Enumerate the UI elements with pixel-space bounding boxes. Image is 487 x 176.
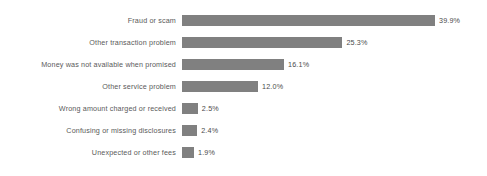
bar-track bbox=[182, 98, 435, 120]
category-label: Money was not available when promised bbox=[0, 54, 176, 76]
bar-value-label: 1.9% bbox=[198, 142, 215, 164]
bar-row: Unexpected or other fees1.9% bbox=[0, 142, 487, 164]
plot-area: Fraud or scam39.9%Other transaction prob… bbox=[0, 0, 487, 176]
bar-track bbox=[182, 120, 435, 142]
category-label: Other transaction problem bbox=[0, 32, 176, 54]
bar-row: Money was not available when promised16.… bbox=[0, 54, 487, 76]
bar-track bbox=[182, 10, 435, 32]
bar[interactable] bbox=[182, 125, 197, 136]
bar-row: Fraud or scam39.9% bbox=[0, 10, 487, 32]
bar-row: Confusing or missing disclosures2.4% bbox=[0, 120, 487, 142]
bar-track bbox=[182, 32, 435, 54]
bar-row: Wrong amount charged or received2.5% bbox=[0, 98, 487, 120]
bar-value-label: 16.1% bbox=[288, 54, 309, 76]
category-label: Other service problem bbox=[0, 76, 176, 98]
bar-chart: Fraud or scam39.9%Other transaction prob… bbox=[0, 0, 487, 176]
bar-row: Other transaction problem25.3% bbox=[0, 32, 487, 54]
bar-value-label: 2.4% bbox=[201, 120, 218, 142]
bar-track bbox=[182, 76, 435, 98]
bar[interactable] bbox=[182, 59, 284, 70]
category-label: Confusing or missing disclosures bbox=[0, 120, 176, 142]
bar[interactable] bbox=[182, 15, 435, 26]
bar[interactable] bbox=[182, 147, 194, 158]
category-label: Fraud or scam bbox=[0, 10, 176, 32]
bar[interactable] bbox=[182, 103, 198, 114]
bar[interactable] bbox=[182, 37, 342, 48]
bar[interactable] bbox=[182, 81, 258, 92]
category-label: Unexpected or other fees bbox=[0, 142, 176, 164]
bar-track bbox=[182, 142, 435, 164]
bar-row: Other service problem12.0% bbox=[0, 76, 487, 98]
bar-value-label: 2.5% bbox=[202, 98, 219, 120]
bar-value-label: 39.9% bbox=[439, 10, 460, 32]
bar-value-label: 25.3% bbox=[346, 32, 367, 54]
category-label: Wrong amount charged or received bbox=[0, 98, 176, 120]
bar-value-label: 12.0% bbox=[262, 76, 283, 98]
